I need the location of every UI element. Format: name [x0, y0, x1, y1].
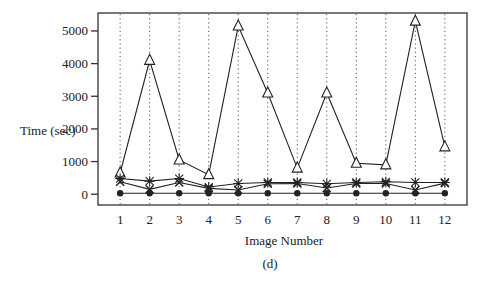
- asterisk-marker: [263, 177, 273, 187]
- triangle-marker: [174, 154, 184, 164]
- circle-marker: [353, 190, 359, 196]
- line-chart: 010002000300040005000 123456789101112 Ti…: [0, 0, 489, 283]
- triangle-marker: [263, 87, 273, 97]
- x-tick-label: 12: [438, 212, 451, 227]
- triangle-marker: [233, 20, 243, 30]
- triangle-marker: [440, 141, 450, 151]
- series-circle: [117, 190, 448, 196]
- asterisk-marker: [145, 176, 155, 186]
- x-tick-label: 6: [264, 212, 271, 227]
- x-axis-title: Image Number: [245, 233, 324, 248]
- x-axis: 123456789101112: [117, 212, 451, 227]
- circle-marker: [265, 190, 271, 196]
- series-asterisk: [115, 174, 450, 192]
- y-tick-label: 1000: [62, 154, 88, 169]
- series-line: [120, 182, 445, 190]
- y-tick-label: 3000: [62, 89, 88, 104]
- figure-caption: (d): [262, 256, 277, 271]
- circle-marker: [117, 190, 123, 196]
- x-tick-label: 1: [117, 212, 124, 227]
- series-line: [120, 21, 445, 174]
- series-group: [115, 15, 450, 196]
- vertical-gridlines: [120, 14, 445, 204]
- series-triangle: [115, 15, 450, 178]
- circle-marker: [176, 190, 182, 196]
- circle-marker: [412, 190, 418, 196]
- x-tick-label: 8: [324, 212, 331, 227]
- x-tick-label: 7: [294, 212, 301, 227]
- triangle-marker: [204, 169, 214, 179]
- triangle-marker: [381, 159, 391, 169]
- x-tick-label: 11: [409, 212, 422, 227]
- x-tick-label: 3: [176, 212, 183, 227]
- x-tick-label: 9: [353, 212, 360, 227]
- circle-marker: [206, 190, 212, 196]
- circle-marker: [383, 190, 389, 196]
- circle-marker: [235, 190, 241, 196]
- y-tick-label: 5000: [62, 23, 88, 38]
- y-tick-label: 4000: [62, 56, 88, 71]
- triangle-marker: [145, 54, 155, 64]
- triangle-marker: [292, 162, 302, 172]
- x-tick-label: 4: [205, 212, 212, 227]
- x-tick-label: 2: [146, 212, 153, 227]
- triangle-marker: [410, 15, 420, 25]
- triangle-marker: [322, 87, 332, 97]
- circle-marker: [146, 190, 152, 196]
- circle-marker: [294, 190, 300, 196]
- y-axis: 010002000300040005000: [62, 23, 98, 201]
- x-tick-label: 10: [379, 212, 392, 227]
- triangle-marker: [351, 157, 361, 167]
- y-axis-title: Time (sec): [20, 123, 76, 138]
- y-tick-label: 0: [82, 187, 89, 202]
- asterisk-marker: [381, 177, 391, 187]
- circle-marker: [324, 190, 330, 196]
- circle-marker: [442, 190, 448, 196]
- x-tick-label: 5: [235, 212, 242, 227]
